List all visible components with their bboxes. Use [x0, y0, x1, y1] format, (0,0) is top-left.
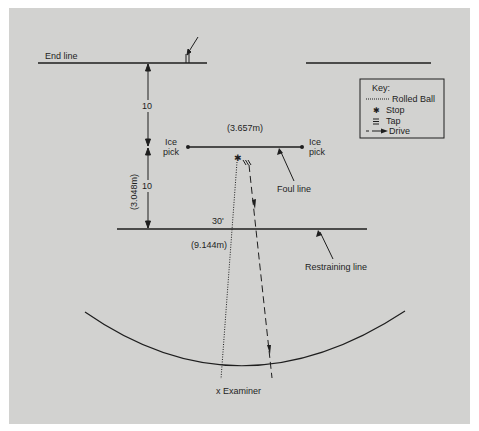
examiner-label: x Examiner	[216, 386, 261, 396]
stop-marker-icon: ✱	[234, 153, 242, 163]
distance-lower-label: 10	[142, 181, 152, 191]
rolled-ball-path	[221, 162, 237, 379]
ice-pick-left-label: Ice	[165, 137, 177, 147]
foul-line-width-label: (3.657m)	[227, 123, 263, 133]
end-line-label: End line	[45, 51, 78, 61]
court-diagram: End line 10 10 (3.048m) (3.657m) Ice pic…	[0, 0, 479, 431]
drive-arrow-icon	[252, 199, 256, 209]
tap-marker-icon	[243, 160, 251, 165]
foul-line-label: Foul line	[277, 184, 311, 194]
legend-title: Key:	[372, 83, 390, 93]
foul-line-pointer	[280, 150, 294, 181]
restraining-line-label: Restraining line	[305, 262, 367, 272]
distance-metric-label: (3.048m)	[129, 174, 139, 210]
legend-tap: Tap	[386, 116, 401, 126]
ice-pick-right-label: Ice	[309, 137, 321, 147]
legend-drive: Drive	[389, 126, 410, 136]
legend-stop: Stop	[386, 105, 405, 115]
ice-pick-left-label-2: pick	[163, 147, 180, 157]
restraining-line-pointer	[320, 232, 333, 259]
restraining-distance-label: 30'	[212, 216, 224, 226]
distance-upper-label: 10	[142, 101, 152, 111]
tap-key-icon	[373, 119, 379, 124]
legend-box: Key: Rolled Ball ✱ Stop Tap Drive	[360, 79, 444, 138]
ice-pick-right-label-2: pick	[309, 147, 326, 157]
legend-rolled-ball: Rolled Ball	[392, 94, 435, 104]
restraining-metric-label: (9.144m)	[191, 240, 227, 250]
ice-pick-right-marker	[300, 145, 304, 149]
end-line-tap-icon	[186, 37, 198, 63]
ice-pick-left-marker	[186, 145, 190, 149]
stop-key-icon: ✱	[373, 106, 380, 115]
examiner-arc	[85, 311, 405, 366]
